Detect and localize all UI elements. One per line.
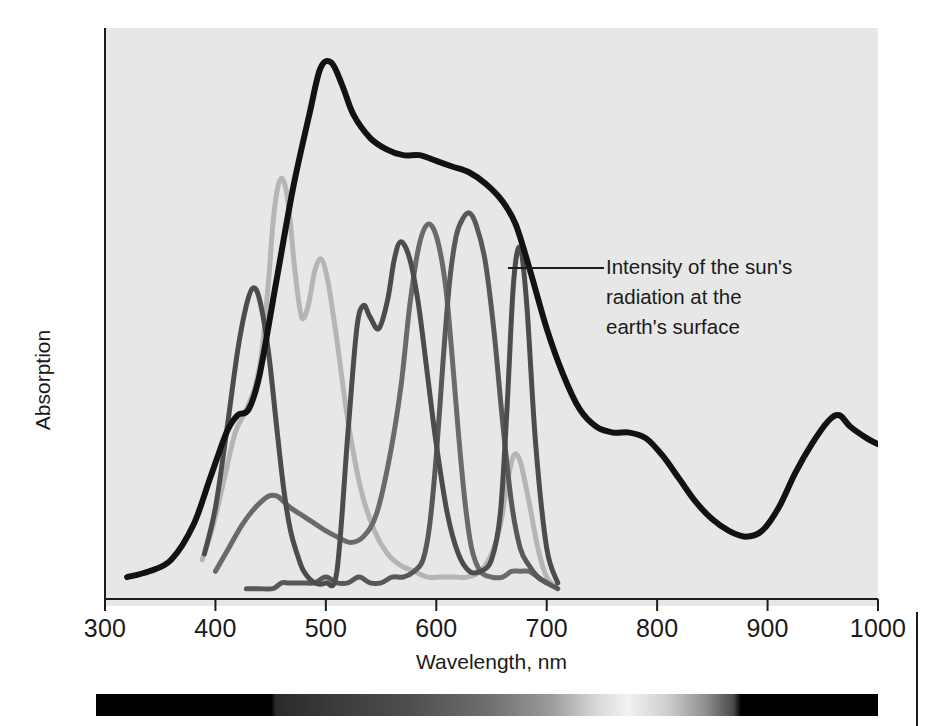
- x-tick-label-800: 800: [636, 611, 678, 645]
- annotation-line-2: radiation at the: [606, 282, 906, 312]
- x-tick-label-700: 700: [526, 611, 568, 645]
- page-edge-rule: [916, 612, 918, 726]
- visible-spectrum-strip: [96, 694, 878, 716]
- y-axis-line: [104, 28, 106, 606]
- x-tick-label-400: 400: [194, 611, 236, 645]
- x-tick-label-1000: 1000: [850, 611, 906, 645]
- x-axis-title: Wavelength, nm: [105, 650, 878, 674]
- x-tick-label-300: 300: [84, 611, 126, 645]
- annotation-leader-line: [508, 267, 604, 269]
- annotation-line-3: earth's surface: [606, 312, 906, 342]
- solar-radiation-annotation: Intensity of the sun's radiation at the …: [606, 252, 906, 342]
- annotation-line-1: Intensity of the sun's: [606, 252, 906, 282]
- absorption-spectrum-figure: 3004005006007008009001000 Wavelength, nm…: [0, 0, 930, 726]
- x-axis-tick-labels: 3004005006007008009001000: [0, 611, 930, 645]
- series-chlorophyll-a: [204, 242, 557, 586]
- x-tick-label-600: 600: [415, 611, 457, 645]
- x-tick-label-900: 900: [746, 611, 788, 645]
- y-axis-title: Absorption: [31, 290, 55, 470]
- x-tick-label-500: 500: [305, 611, 347, 645]
